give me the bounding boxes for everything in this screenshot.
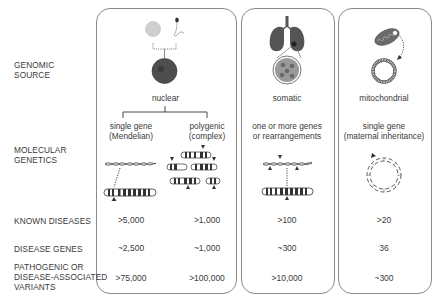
lung-tumor-icon [241, 0, 333, 100]
somatic-source-label: somatic [241, 93, 333, 103]
mitochondrial-variants: ~300 [338, 273, 430, 283]
row-label-molecular-genetics: MOLECULAR GENETICS [14, 145, 67, 165]
nuclear-polygenic-variants: >100,000 [170, 273, 244, 283]
egg-sperm-nucleus-icon [96, 0, 236, 100]
row-label-disease-genes: DISEASE GENES [14, 244, 83, 254]
nuclear-source-label: nuclear [96, 93, 235, 103]
nuclear-polygenic-disease-genes: ~1,000 [170, 243, 244, 253]
polygenic-chromosomes-icon [164, 140, 244, 200]
somatic-known-diseases: >100 [241, 215, 333, 225]
nuclear-polygenic-known-diseases: >1,000 [170, 215, 244, 225]
mendelian-dna-chromosome-icon [96, 140, 166, 200]
row-label-genomic-source: GENOMIC SOURCE [14, 60, 54, 80]
mitochondrial-known-diseases: >20 [338, 215, 430, 225]
somatic-genetics-label: one or more genes or rearrangements [241, 121, 333, 141]
nuclear-single-disease-genes: ~2,500 [96, 243, 166, 253]
mtdna-circle-icon [338, 140, 430, 200]
somatic-variants: >10,000 [241, 273, 333, 283]
mitochondrial-disease-genes: 36 [338, 243, 430, 253]
single-gene-label: single gene (Mendelian) [96, 121, 166, 141]
row-label-known-diseases: KNOWN DISEASES [14, 216, 91, 226]
nuclear-single-known-diseases: >5,000 [96, 215, 166, 225]
somatic-dna-chromosome-icon [241, 140, 333, 200]
mitochondrion-mtdna-icon [338, 0, 430, 100]
nuclear-single-variants: >75,000 [96, 273, 166, 283]
mitochondrial-genetics-label: single gene (maternal inheritance) [334, 121, 434, 141]
row-label-variants: PATHOGENIC OR DISEASE-ASSOCIATED VARIANT… [14, 262, 107, 292]
somatic-disease-genes: ~300 [241, 243, 333, 253]
polygenic-label: polygenic (complex) [170, 121, 244, 141]
mitochondrial-source-label: mitochondrial [338, 93, 430, 103]
